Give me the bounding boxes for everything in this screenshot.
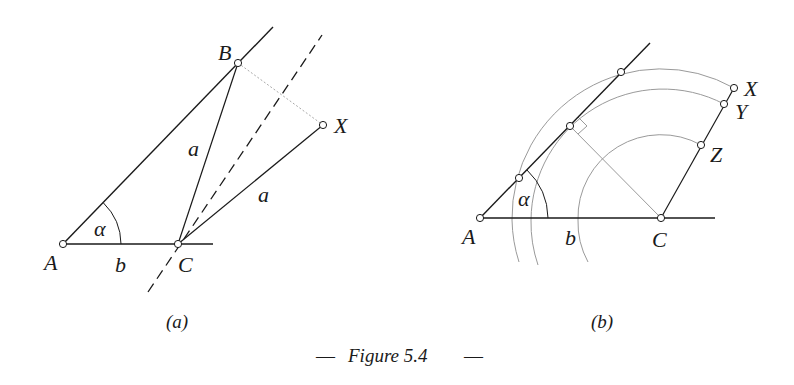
label-z-b: Z <box>710 142 723 167</box>
figure-canvas: A B C X a a b α (a) <box>0 0 794 385</box>
panel-b: A C X Y Z b α (b) <box>460 43 759 333</box>
label-a: A <box>42 250 58 275</box>
angle-arc-alpha <box>104 203 122 244</box>
label-side-b: b <box>115 252 126 277</box>
point-c <box>174 240 181 247</box>
point-foot <box>566 122 573 129</box>
perpendicular-line <box>570 126 661 218</box>
label-angle-alpha-b: α <box>518 186 530 211</box>
point-x-b <box>730 84 737 91</box>
sublabel-a: (a) <box>166 311 188 333</box>
caption-dash-left: — <box>315 345 336 366</box>
label-angle-alpha: α <box>94 216 106 241</box>
point-ab-lower <box>515 174 522 181</box>
arc-middle-y <box>531 89 724 265</box>
panel-a: A B C X a a b α (a) <box>42 27 349 333</box>
point-a-b <box>476 214 483 221</box>
ray-ab <box>63 27 273 244</box>
sublabel-b: (b) <box>591 311 613 333</box>
label-x-b: X <box>743 76 759 101</box>
figure-caption: — Figure 5.4 — <box>315 345 484 366</box>
point-ab-upper <box>617 68 624 75</box>
right-angle-marker <box>578 117 587 134</box>
label-c: C <box>178 252 193 277</box>
label-a-b: A <box>460 224 476 249</box>
point-z-b <box>697 141 704 148</box>
caption-dash-right: — <box>463 345 484 366</box>
label-c-b: C <box>652 227 667 252</box>
label-side-a-bc: a <box>188 136 199 161</box>
side-bc <box>178 63 238 244</box>
arc-outer-x <box>512 69 734 262</box>
point-x <box>319 121 326 128</box>
point-c-b <box>657 214 664 221</box>
point-y-b <box>720 100 727 107</box>
label-x: X <box>333 113 349 138</box>
point-b <box>234 59 241 66</box>
dotted-bx <box>238 63 323 125</box>
label-y-b: Y <box>735 99 750 124</box>
label-side-a-cx: a <box>258 182 269 207</box>
label-side-b-b: b <box>565 225 576 250</box>
ray-a <box>480 43 650 218</box>
arc-inner-z <box>578 135 701 262</box>
caption-text: Figure 5.4 <box>347 345 428 366</box>
angle-arc-alpha-b <box>527 170 548 218</box>
side-cx <box>178 125 323 244</box>
point-a <box>59 240 66 247</box>
label-b-vertex: B <box>218 40 231 65</box>
